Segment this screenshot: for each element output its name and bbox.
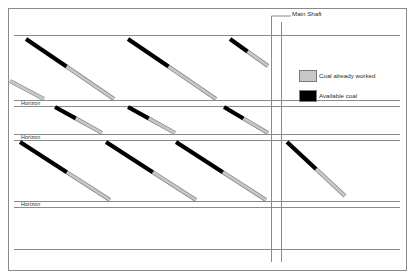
seam-band-3-3-available (176, 142, 223, 172)
seam-band-1-1-available (26, 39, 66, 67)
legend-label-available-coal: Available coal (319, 93, 357, 99)
seam-band-3-1-available (20, 142, 67, 172)
diagram-frame (9, 9, 407, 271)
horizon-label-2: Horizon (21, 135, 40, 140)
main-shaft (272, 16, 292, 262)
legend-label-coal-already-worked: Coal already worked (319, 73, 375, 79)
main-shaft-label: Main Shaft (292, 11, 322, 17)
seam-band-3-2-worked-fill (153, 172, 196, 200)
seam-right-panel-1-available (287, 142, 316, 169)
seam-band-2-3-available (224, 107, 243, 118)
seam-band-1-2-available (128, 39, 168, 67)
seam-band-3-2-available (106, 142, 153, 172)
seam-band-2-3-worked-fill (243, 118, 268, 133)
seam-band-2-1-worked-fill (76, 118, 102, 133)
seam-band-1-4-available (230, 39, 247, 51)
seam-band-1-1-worked-fill (66, 67, 114, 99)
frame-rect (9, 9, 407, 271)
seam-band-2-1-available (55, 107, 76, 118)
seam-band-1-4-worked-fill (247, 51, 268, 66)
seam-right-panel-1-worked-fill (316, 169, 345, 196)
seam-band-3-3-worked-fill (223, 172, 266, 200)
legend-swatch-gray-swatch (300, 71, 317, 82)
coal-seams (10, 39, 345, 200)
seam-band-1-3-worked-fill (10, 81, 44, 99)
seam-band-3-1-worked-fill (67, 172, 110, 200)
legend-swatch-black-swatch (300, 91, 317, 102)
mine-layout-diagram: Main Shaft Horizon Horizon Horizon Coal … (0, 0, 414, 278)
seam-band-2-2-available (128, 107, 149, 118)
seam-band-1-2-worked-fill (168, 67, 216, 99)
legend-swatches (300, 71, 317, 102)
diagram-canvas (0, 0, 414, 278)
horizon-label-1: Horizon (21, 101, 40, 106)
seam-band-2-2-worked-fill (149, 118, 175, 133)
gallery-lines (14, 36, 400, 250)
horizon-label-3: Horizon (21, 202, 40, 207)
